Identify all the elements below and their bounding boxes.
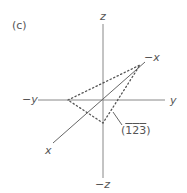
z-positive-label: z <box>100 11 106 22</box>
z-negative-label: −z <box>95 179 110 190</box>
paren-close: ) <box>146 124 150 137</box>
plane-triangle <box>68 65 140 123</box>
panel-label: (c) <box>12 20 27 31</box>
x-negative-label: −x <box>144 52 160 63</box>
x-positive-label: x <box>45 145 52 156</box>
y-positive-label: y <box>170 95 177 106</box>
y-negative-label: −y <box>22 94 38 105</box>
plane-miller-label: (123) <box>121 125 151 136</box>
